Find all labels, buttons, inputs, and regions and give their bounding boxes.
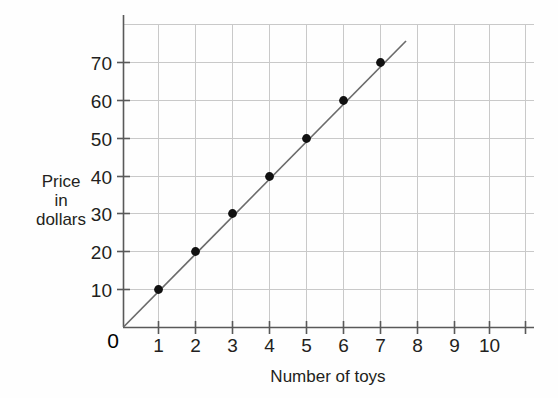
ytick-label-40: 40 (91, 167, 112, 188)
x-axis-title: Number of toys (270, 367, 385, 386)
line-chart: 70 60 50 40 30 20 10 0 1 2 3 4 5 6 7 8 9… (0, 0, 558, 398)
y-axis-title-line-1: Price (42, 172, 81, 191)
ytick-label-70: 70 (91, 53, 112, 74)
ytick-label-50: 50 (91, 129, 112, 150)
xtick-label-10: 10 (479, 335, 500, 356)
y-axis-title-line-2: in (54, 191, 67, 210)
xtick-label-7: 7 (375, 335, 386, 356)
origin-label: 0 (107, 329, 119, 352)
data-point (228, 209, 237, 218)
data-point (265, 172, 274, 181)
xtick-label-9: 9 (449, 335, 460, 356)
data-point (191, 247, 200, 256)
xtick-label-8: 8 (412, 335, 423, 356)
xtick-label-3: 3 (227, 335, 238, 356)
ytick-label-30: 30 (91, 204, 112, 225)
data-point (339, 96, 348, 105)
xtick-label-5: 5 (301, 335, 312, 356)
chart-background (0, 0, 558, 398)
xtick-label-4: 4 (264, 335, 275, 356)
ytick-label-60: 60 (91, 91, 112, 112)
data-point (302, 134, 311, 143)
xtick-label-6: 6 (338, 335, 349, 356)
ytick-label-20: 20 (91, 242, 112, 263)
y-axis-title-line-3: dollars (36, 210, 86, 229)
data-point (376, 58, 385, 67)
ytick-label-10: 10 (91, 280, 112, 301)
data-point (154, 285, 163, 294)
chart-container: 70 60 50 40 30 20 10 0 1 2 3 4 5 6 7 8 9… (0, 0, 558, 398)
xtick-label-1: 1 (153, 335, 164, 356)
xtick-label-2: 2 (190, 335, 201, 356)
